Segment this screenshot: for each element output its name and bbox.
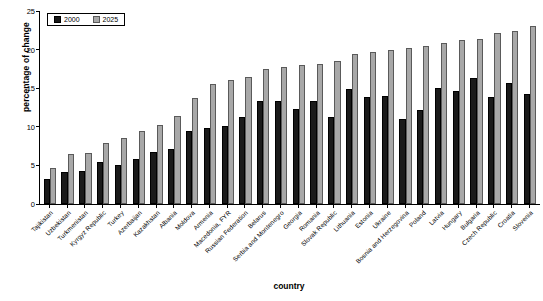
bar-2025 xyxy=(530,26,536,204)
bar-2025 xyxy=(245,77,251,204)
bar-group xyxy=(379,11,397,204)
bar-group xyxy=(486,11,504,204)
bar-group xyxy=(165,11,183,204)
bar-group xyxy=(503,11,521,204)
bar-group xyxy=(254,11,272,204)
bar-series-container xyxy=(40,11,540,204)
bar-2025 xyxy=(85,153,91,204)
bar-2025 xyxy=(494,33,500,204)
bar-2025 xyxy=(192,98,198,204)
y-axis-tick-label: 25 xyxy=(27,7,35,16)
x-axis-tick-labels: TajikistanUzbekistanTurkmenistanKyrgyz R… xyxy=(39,209,539,275)
bar-group xyxy=(326,11,344,204)
bar-2025 xyxy=(210,84,216,204)
x-axis-title: country xyxy=(39,281,539,291)
bar-2025 xyxy=(370,52,376,204)
bar-group xyxy=(450,11,468,204)
y-axis-tick-label: 15 xyxy=(27,84,35,93)
bar-2025 xyxy=(103,143,109,204)
bar-group xyxy=(432,11,450,204)
bar-2025 xyxy=(157,125,163,204)
bar-group xyxy=(272,11,290,204)
bar-2025 xyxy=(228,80,234,204)
bar-2025 xyxy=(477,39,483,204)
bar-2025 xyxy=(459,40,465,204)
bar-2025 xyxy=(406,48,412,204)
bar-2025 xyxy=(50,168,56,204)
x-axis-label-cell: Tajikistan xyxy=(40,209,58,275)
bar-group xyxy=(130,11,148,204)
bar-2025 xyxy=(441,43,447,204)
bar-group xyxy=(77,11,95,204)
chart-figure: percentage of change 0510152025 Tajikist… xyxy=(0,0,543,301)
chart-legend: 20002025 xyxy=(47,13,125,26)
legend-swatch-icon xyxy=(93,16,100,23)
x-axis-label-cell: Slovenia xyxy=(520,209,538,275)
bar-group xyxy=(521,11,539,204)
bar-group xyxy=(41,11,59,204)
bar-group xyxy=(112,11,130,204)
x-axis-label-cell: Azerbaijan xyxy=(129,209,147,275)
legend-swatch-icon xyxy=(54,16,61,23)
bar-group xyxy=(361,11,379,204)
bar-2025 xyxy=(139,131,145,204)
bar-group xyxy=(397,11,415,204)
bar-group xyxy=(183,11,201,204)
bar-group xyxy=(148,11,166,204)
bar-2025 xyxy=(121,138,127,204)
bar-2025 xyxy=(512,31,518,204)
bar-group xyxy=(290,11,308,204)
bar-2025 xyxy=(334,61,340,204)
legend-item: 2000 xyxy=(54,16,80,23)
y-axis-tick-label: 5 xyxy=(31,161,35,170)
bar-group xyxy=(308,11,326,204)
bar-2025 xyxy=(174,116,180,204)
bar-2025 xyxy=(423,46,429,204)
bar-2025 xyxy=(388,50,394,204)
y-axis-tick-label: 20 xyxy=(27,46,35,55)
bar-2025 xyxy=(68,154,74,204)
bar-2025 xyxy=(299,65,305,204)
bar-group xyxy=(94,11,112,204)
y-axis-tick-label: 10 xyxy=(27,123,35,132)
bar-group xyxy=(414,11,432,204)
bar-group xyxy=(219,11,237,204)
plot-area: 0510152025 xyxy=(39,11,540,205)
legend-label: 2025 xyxy=(103,16,119,23)
bar-group xyxy=(201,11,219,204)
bar-group xyxy=(237,11,255,204)
y-axis-tick-label: 0 xyxy=(31,200,35,209)
bar-2025 xyxy=(263,69,269,204)
bar-2025 xyxy=(317,64,323,204)
y-axis-title: percentage of change xyxy=(21,0,31,137)
legend-item: 2025 xyxy=(93,16,119,23)
bar-group xyxy=(468,11,486,204)
bar-group xyxy=(343,11,361,204)
bar-2025 xyxy=(352,54,358,204)
legend-label: 2000 xyxy=(64,16,80,23)
bar-group xyxy=(59,11,77,204)
bar-2025 xyxy=(281,67,287,204)
